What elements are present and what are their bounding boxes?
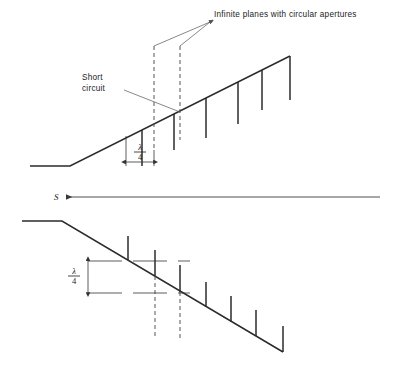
upper-guide-line <box>30 56 290 166</box>
technical-diagram-figure: λ 4 Infinite planes with circular apertu… <box>0 0 397 374</box>
diagram-canvas: λ 4 Infinite planes with circular apertu… <box>0 0 397 374</box>
lower-quarter-denominator: 4 <box>72 276 77 286</box>
s-axis-group: S <box>54 192 380 202</box>
upper-view-group: λ 4 Infinite planes with circular apertu… <box>30 10 357 166</box>
lower-guide-line <box>22 221 283 352</box>
apertures-leader-1 <box>154 22 210 46</box>
apertures-label: Infinite planes with circular apertures <box>214 10 357 19</box>
apertures-leader-2 <box>180 22 210 46</box>
short-circuit-label-line2: circuit <box>82 84 106 93</box>
upper-lambda-symbol: λ <box>137 142 142 152</box>
lower-lambda-quarter-label: λ 4 <box>68 266 80 286</box>
lower-lambda-symbol: λ <box>71 266 76 276</box>
lower-view-group: λ 4 <box>22 221 283 352</box>
upper-lambda-quarter-label: λ 4 <box>134 142 146 162</box>
s-axis-label: S <box>54 192 59 202</box>
short-circuit-label-line1: Short <box>82 73 103 82</box>
short-circuit-leader <box>124 90 180 112</box>
